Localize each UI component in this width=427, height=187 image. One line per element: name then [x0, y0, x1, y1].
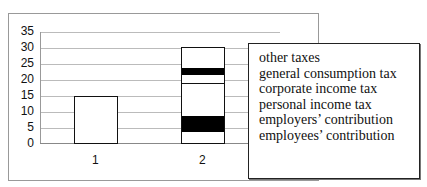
- plot-area: [40, 32, 280, 144]
- bar-1: [74, 96, 118, 144]
- gridline: [40, 64, 280, 65]
- bar-2: [181, 47, 225, 144]
- y-tick: 5: [14, 121, 34, 133]
- x-tick: 1: [92, 153, 99, 167]
- gridline: [40, 80, 280, 81]
- y-tick: 35: [14, 25, 34, 37]
- y-tick: 30: [14, 41, 34, 53]
- y-tick: 15: [14, 89, 34, 101]
- segment-general-consumption-tax: [182, 68, 224, 75]
- gridline: [40, 48, 280, 49]
- y-tick: 10: [14, 105, 34, 117]
- gridline: [40, 32, 280, 33]
- y-tick: 0: [14, 137, 34, 149]
- legend-item: corporate income tax: [259, 81, 419, 97]
- legend-item: general consumption tax: [259, 66, 419, 82]
- segment-corporate-income-tax-boundary: [182, 83, 224, 84]
- x-tick: 2: [199, 153, 206, 167]
- legend-item: personal income tax: [259, 97, 419, 113]
- y-tick: 25: [14, 57, 34, 69]
- segment-employers-contribution: [182, 116, 224, 132]
- legend-item: employees’ contribution: [259, 128, 419, 144]
- y-axis: [40, 32, 41, 144]
- legend: other taxes general consumption tax corp…: [248, 43, 420, 179]
- legend-item: other taxes: [259, 50, 419, 66]
- legend-item: employers’ contribution: [259, 112, 419, 128]
- y-tick: 20: [14, 73, 34, 85]
